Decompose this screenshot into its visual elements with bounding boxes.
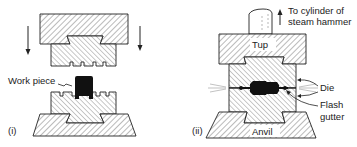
flash-gutter-label-line1: Flash	[320, 99, 343, 110]
piston-rod	[249, 9, 272, 34]
cylinder-label-line1: To cylinder of	[288, 5, 344, 16]
tup-label: Tup	[252, 39, 268, 50]
up-arrow-icon	[278, 9, 283, 25]
panel-i-label: (i)	[8, 125, 16, 136]
work-piece-leader	[58, 84, 72, 86]
panel-ii: To cylinder of steam hammer Tup	[192, 5, 351, 138]
down-arrow-left-icon	[26, 26, 31, 55]
down-arrow-right-icon	[138, 26, 143, 51]
panel-i: Work piece (i)	[8, 14, 143, 136]
panel-ii-label: (ii)	[192, 125, 203, 136]
flash-spray-right	[299, 84, 318, 92]
die-leader-lower	[299, 92, 318, 96]
workpiece	[75, 76, 93, 99]
work-piece-label: Work piece	[8, 75, 55, 86]
flash-spray-left	[208, 84, 226, 92]
anvil-label: Anvil	[252, 126, 273, 137]
forging-diagram: Work piece (i) To cylinder of steam hamm…	[0, 0, 357, 147]
cylinder-label-line2: steam hammer	[288, 16, 351, 27]
die-label: Die	[320, 82, 334, 93]
flash-gutter-label-line2: gutter	[320, 111, 344, 122]
